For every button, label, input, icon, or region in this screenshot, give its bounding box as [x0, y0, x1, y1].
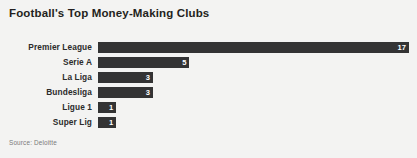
bar-track: 3	[98, 72, 409, 83]
bar-row: Bundesliga 3	[0, 85, 417, 99]
bar-bundesliga[interactable]: 3	[98, 87, 153, 98]
bar-row: Super Lig 1	[0, 115, 417, 129]
source-note: Source: Deloitte	[9, 139, 57, 146]
bar-track: 3	[98, 87, 409, 98]
bar-value-la-liga: 3	[146, 72, 150, 83]
bar-chart-plot-area: Premier League 17 Serie A 5 La Liga 3	[0, 40, 417, 132]
bar-track: 17	[98, 42, 409, 53]
bar-value-ligue-1: 1	[109, 102, 113, 113]
bar-track: 1	[98, 102, 409, 113]
category-label-bundesliga: Bundesliga	[0, 85, 92, 99]
bar-super-lig[interactable]: 1	[98, 117, 116, 128]
category-label-la-liga: La Liga	[0, 70, 92, 84]
category-label-super-lig: Super Lig	[0, 115, 92, 129]
bar-row: Ligue 1 1	[0, 100, 417, 114]
bar-premier-league[interactable]: 17	[98, 42, 409, 53]
category-label-ligue-1: Ligue 1	[0, 100, 92, 114]
bar-la-liga[interactable]: 3	[98, 72, 153, 83]
bar-row: Serie A 5	[0, 55, 417, 69]
bar-track: 5	[98, 57, 409, 68]
chart-card: Football's Top Money-Making Clubs Premie…	[0, 0, 417, 158]
chart-title: Football's Top Money-Making Clubs	[9, 7, 209, 19]
bar-row: La Liga 3	[0, 70, 417, 84]
bar-row: Premier League 17	[0, 40, 417, 54]
bar-serie-a[interactable]: 5	[98, 57, 189, 68]
bar-value-serie-a: 5	[182, 57, 186, 68]
bar-value-bundesliga: 3	[146, 87, 150, 98]
category-label-premier-league: Premier League	[0, 40, 92, 54]
bar-track: 1	[98, 117, 409, 128]
bar-value-super-lig: 1	[109, 117, 113, 128]
category-label-serie-a: Serie A	[0, 55, 92, 69]
bar-ligue-1[interactable]: 1	[98, 102, 116, 113]
bar-value-premier-league: 17	[398, 42, 406, 53]
